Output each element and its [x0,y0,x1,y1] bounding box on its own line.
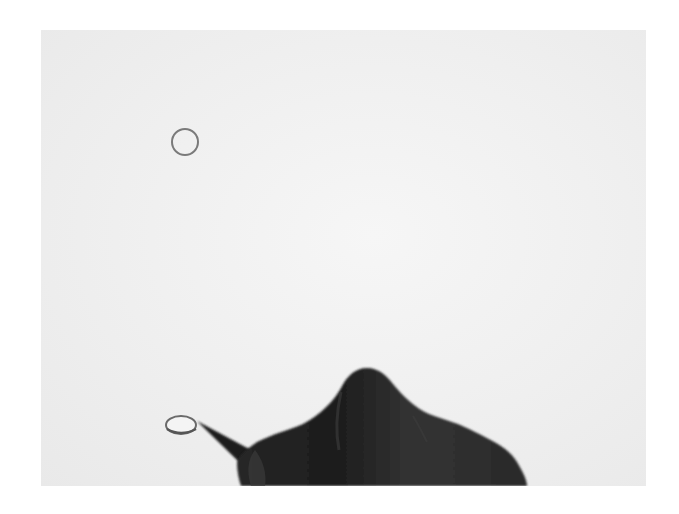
page-canvas: Photograph of a hand holding a pencil dr… [0,0,679,514]
hand [237,368,527,486]
photo-scene [41,30,646,486]
outlined-circle [172,129,198,155]
photograph [41,30,646,486]
drawn-ellipse [166,416,196,434]
